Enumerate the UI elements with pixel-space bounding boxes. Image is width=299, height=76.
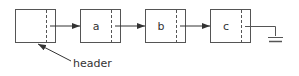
header-pointer-arrow — [38, 44, 71, 61]
node-label: c — [223, 20, 229, 33]
header-node — [16, 10, 56, 43]
header-label: header — [73, 57, 112, 70]
node-b: b — [146, 10, 186, 43]
linked-list-diagram: a b c header — [0, 0, 299, 76]
node-label: b — [158, 20, 165, 33]
node-c: c — [211, 10, 251, 43]
node-label: a — [93, 20, 100, 33]
node-a: a — [81, 10, 121, 43]
